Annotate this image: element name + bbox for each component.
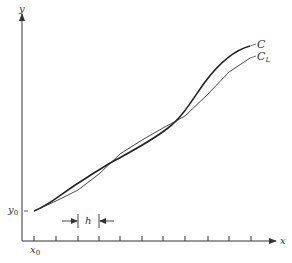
y0-marker: y0 xyxy=(7,204,28,217)
x-axis-label: x xyxy=(280,235,286,246)
x-axis-ticks xyxy=(34,236,251,241)
curve-cl-leader xyxy=(250,56,256,58)
diagram-canvas: y x x0 y0 h xyxy=(0,0,292,263)
approximation-curve-cl xyxy=(34,58,250,211)
y-axis-label: y xyxy=(18,3,25,14)
exact-curve-c xyxy=(34,46,250,211)
svg-text:y0: y0 xyxy=(7,204,18,217)
curve-c-leader xyxy=(250,44,256,46)
x0-label: x0 xyxy=(30,244,40,257)
x-axis: x xyxy=(22,235,286,246)
step-size-label: h xyxy=(85,215,91,226)
curve-cl-label: CL xyxy=(257,50,270,64)
y-axis: y xyxy=(18,3,25,241)
